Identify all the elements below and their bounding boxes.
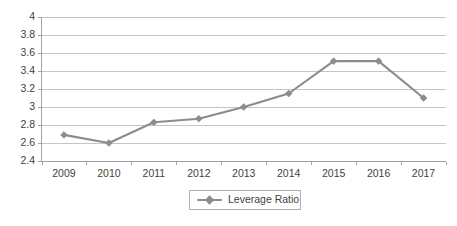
- y-tick-label-3.6: 3.6: [20, 46, 35, 58]
- x-tick-label-2009: 2009: [52, 167, 76, 179]
- y-tick-label-3.8: 3.8: [20, 28, 35, 40]
- y-tick-label-3: 3: [29, 100, 35, 112]
- legend-entry-label: Leverage Ratio: [228, 193, 299, 205]
- x-tick-label-2011: 2011: [143, 167, 166, 179]
- x-tick-label-2010: 2010: [97, 167, 121, 179]
- y-axis-tick-labels: 43.83.63.43.232.82.62.4: [20, 10, 35, 166]
- y-tick-label-2.4: 2.4: [20, 154, 35, 166]
- x-tick-label-2017: 2017: [412, 167, 436, 179]
- x-tick-label-2014: 2014: [277, 167, 301, 179]
- x-tick-label-2015: 2015: [322, 167, 346, 179]
- line-chart: 43.83.63.43.232.82.62.4 2009201020112012…: [0, 0, 457, 226]
- chart-legend[interactable]: Leverage Ratio: [190, 191, 301, 210]
- y-tick-label-2.6: 2.6: [20, 136, 35, 148]
- y-tick-label-4: 4: [29, 10, 35, 22]
- y-tick-label-3.4: 3.4: [20, 64, 35, 76]
- chart-canvas: 43.83.63.43.232.82.62.4 2009201020112012…: [0, 0, 457, 226]
- x-tick-label-2016: 2016: [367, 167, 391, 179]
- x-axis-tick-labels: 200920102011201220132014201520162017: [52, 167, 435, 179]
- x-tick-label-2013: 2013: [232, 167, 256, 179]
- x-tick-label-2012: 2012: [187, 167, 211, 179]
- y-tick-label-3.2: 3.2: [20, 82, 35, 94]
- y-tick-label-2.8: 2.8: [20, 118, 35, 130]
